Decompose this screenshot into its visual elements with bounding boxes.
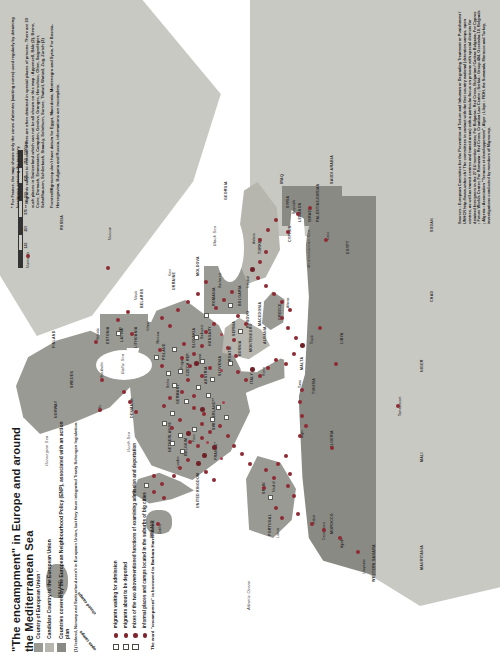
- sources-block: Sources : European Committee for the Pre…: [458, 10, 492, 224]
- legend-areas: Country of European Union ¹ Candidate Co…: [34, 416, 79, 652]
- legend-marker-label: informal places and camps located in the…: [142, 492, 148, 628]
- city-label: Minsk: [134, 291, 138, 300]
- city-label: Helsinki: [96, 328, 100, 340]
- legend-swatch-candidate: [45, 643, 54, 652]
- country-label: UNITED KINGDOM: [196, 473, 200, 508]
- country-label: FINLAND: [52, 330, 56, 348]
- country-label: MALI: [420, 452, 424, 462]
- city-label: Laayoune: [362, 559, 366, 574]
- legend-column-headers: open camps closed camps: [92, 410, 97, 649]
- country-label: LIBYA: [340, 332, 344, 344]
- city-label: Tripoli: [310, 335, 314, 344]
- country-label: MALTA: [300, 357, 304, 370]
- country-label: MAURITANIA: [420, 545, 424, 570]
- country-label: WESTERN SAHARA: [372, 544, 376, 582]
- country-label: SYRIA: [286, 196, 290, 208]
- city-label: Vilnius: [146, 321, 150, 331]
- legend-label: Country of European Union ¹: [34, 571, 41, 639]
- legend-marker-label: mixes of the two abovementioned function…: [132, 443, 138, 628]
- city-label: Moscow: [108, 228, 112, 240]
- sea-label: Atlantic Ocean: [246, 580, 251, 610]
- note-switzerland: ** Migrants subject to removal orders ar…: [24, 12, 45, 208]
- legend-marker-item: mixes of the two abovementioned function…: [132, 410, 138, 650]
- open-camp-icon: [113, 644, 119, 650]
- country-label: JORDAN: [316, 183, 320, 200]
- country-label: EGYPT: [346, 241, 350, 254]
- country-label: SWEDEN: [70, 371, 74, 388]
- note-france: * For France, the map shows only the zon…: [10, 12, 20, 208]
- legend-item: Country of European Union ¹: [34, 416, 43, 652]
- city-label: Ankara: [252, 233, 256, 244]
- legend-item: Countries covered by the European Neighb…: [57, 416, 71, 652]
- sea-label: Baltic Sea: [120, 353, 125, 374]
- legend-marker-item: informal places and camps located in the…: [142, 410, 148, 650]
- city-label: Madrid: [272, 482, 276, 492]
- rotated-poster-wrapper: Black Sea Mediterranean Sea Atlantic Oce…: [0, 0, 500, 666]
- city-label: Athens: [286, 297, 290, 308]
- legend-swatch-eu: [34, 643, 43, 652]
- scale-tick: 125: [24, 243, 28, 260]
- legend-marker-item: migrants about to be deported: [123, 410, 129, 650]
- country-label: MOROCCO: [330, 513, 334, 534]
- city-label: Lisbon: [276, 528, 280, 538]
- country-label: IRAQ: [280, 174, 284, 184]
- legend-marker-label: migrants waiting for admission: [113, 560, 119, 628]
- country-label: GEORGIA: [224, 181, 228, 200]
- legend-label: Candidate Country to the European Union: [45, 539, 52, 639]
- legend-marker-item: migrants waiting for admission: [113, 410, 119, 650]
- country-label: UKRAINE: [172, 272, 176, 290]
- legend-markers: open camps closed camps migrants waiting…: [92, 410, 151, 650]
- country-label: HUNGARY: [208, 326, 212, 346]
- country-label: BULGARIA: [238, 285, 242, 306]
- city-label: Stockholm: [100, 362, 104, 378]
- country-label: PALESTINE: [316, 200, 320, 222]
- country-label: CHAD: [430, 291, 434, 302]
- country-label: PORTUGAL: [268, 514, 272, 536]
- country-label: ESTONIA: [106, 326, 110, 344]
- legend-label: Countries covered by the European Neighb…: [57, 416, 71, 639]
- city-label: Bucharest: [218, 273, 222, 288]
- legend-footnote: (1) Iceland, Norway and Switzerland aren…: [73, 416, 78, 652]
- legend-marker-label: migrants about to be deported: [123, 562, 129, 628]
- country-label: SAUDI ARABIA: [330, 155, 334, 184]
- informal-camp-icon: [143, 633, 147, 637]
- city-label: Istanbul: [246, 276, 250, 288]
- page-title: "The encampment" in Europe and around th…: [10, 424, 37, 652]
- city-label: Berlin: [166, 379, 170, 388]
- city-label: Kiev: [168, 269, 172, 276]
- legend-swatch-enp: [57, 643, 66, 652]
- scale-tick: 250: [24, 226, 28, 243]
- country-label: SWITZERLAND**: [212, 398, 216, 430]
- sea-label: Mediterranean Sea: [306, 230, 311, 268]
- country-label: LITHUANIA: [134, 326, 138, 348]
- country-label: MACEDONIA: [258, 302, 262, 326]
- city-label: Warsaw: [156, 332, 160, 344]
- country-label: BELARUS: [140, 289, 144, 308]
- country-label: ROMANIA: [212, 287, 216, 306]
- poster-frame: Black Sea Mediterranean Sea Atlantic Oce…: [0, 0, 500, 666]
- country-label: POLAND: [162, 343, 166, 360]
- sea-label: Black Sea: [212, 226, 217, 246]
- country-label: TUNISIA: [312, 378, 316, 394]
- city-label: Paris: [192, 434, 196, 442]
- open-camp-icon: [132, 644, 138, 650]
- country-label: BOSNIA: [238, 341, 242, 356]
- city-label: Tunis: [298, 380, 302, 388]
- country-label: NIGER: [420, 359, 424, 372]
- title-block: "The encampment" in Europe and around th…: [10, 424, 37, 652]
- map-poster: Black Sea Mediterranean Sea Atlantic Oce…: [0, 0, 500, 666]
- country-label: ALBANIA: [263, 326, 267, 344]
- closed-camp-icon: [124, 633, 128, 637]
- encampment-note: The word "encampment" is borrowed to Bar…: [150, 500, 156, 650]
- country-label: ITALY: [250, 373, 254, 384]
- scale-tick: 375: [24, 209, 28, 226]
- country-label: RUSSIA: [60, 215, 64, 230]
- country-label: SLOVENIA: [218, 356, 222, 376]
- country-label: MOLDOVA: [196, 256, 200, 276]
- map-notes: * For France, the map shows only the zon…: [10, 12, 64, 208]
- country-label: SUDAN: [430, 218, 434, 232]
- country-label: SERBIA: [232, 321, 236, 336]
- note-missing-data: Frontex/Migreurop don't have datum for E…: [49, 12, 59, 208]
- closed-camp-icon: [114, 633, 118, 637]
- open-camp-icon: [123, 644, 129, 650]
